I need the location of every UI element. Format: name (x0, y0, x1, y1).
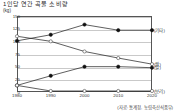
data-point-marker (83, 50, 86, 53)
source-note: (자료: 통계청, 농림축산식품부) (117, 105, 173, 111)
data-point-marker (15, 84, 18, 87)
x-axis-tick: 1980 (4, 93, 30, 99)
data-point-marker (117, 89, 120, 92)
data-point-marker (49, 40, 52, 43)
data-point-marker (117, 56, 120, 59)
data-point-marker (83, 23, 86, 26)
chart-title: 1인당 연간 곡물 소비량 (3, 0, 103, 8)
data-point-marker (150, 89, 153, 92)
x-axis-tick: 2000 (72, 93, 98, 99)
series-line (17, 67, 152, 86)
data-point-marker (117, 65, 120, 68)
data-point-marker (150, 66, 153, 69)
series-line (17, 25, 152, 41)
y-axis-unit-label: (kg) (3, 8, 11, 13)
data-point-marker (49, 89, 52, 92)
data-point-marker (49, 74, 52, 77)
data-point-marker (15, 39, 18, 42)
data-point-marker (15, 35, 18, 38)
series-data-layer (17, 16, 152, 92)
x-axis-tick: 1990 (38, 93, 64, 99)
chart-container: 1인당 연간 곡물 소비량 (kg) 0255075100125150 1980… (0, 0, 174, 111)
series-label: (기타) (154, 28, 174, 33)
data-point-marker (150, 63, 153, 66)
data-point-marker (49, 33, 52, 36)
x-axis-tick: 2010 (105, 93, 131, 99)
data-point-marker (150, 28, 153, 31)
data-point-marker (83, 89, 86, 92)
series-label: (밀) (154, 65, 174, 70)
series-label: (보리) (154, 89, 174, 94)
data-point-marker (83, 65, 86, 68)
data-point-marker (117, 28, 120, 31)
